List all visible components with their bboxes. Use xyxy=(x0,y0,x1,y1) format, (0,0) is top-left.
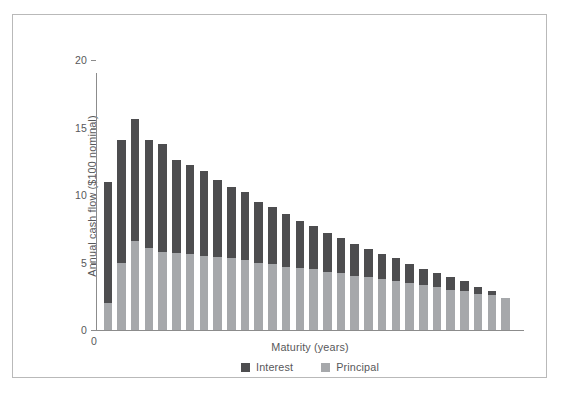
bar-segment-principal xyxy=(241,260,250,330)
stacked-bar xyxy=(186,165,195,330)
stacked-bar xyxy=(364,249,373,330)
bar-segment-interest xyxy=(446,277,455,289)
stacked-bar xyxy=(337,238,346,330)
stacked-bar xyxy=(268,207,277,330)
bar-segment-interest xyxy=(241,192,250,260)
bar-segment-principal xyxy=(350,276,359,330)
bar-segment-interest xyxy=(172,160,181,253)
bar-segment-principal xyxy=(158,252,167,330)
stacked-bar xyxy=(131,119,140,330)
bar-segment-interest xyxy=(227,187,236,259)
stacked-bar xyxy=(392,258,401,330)
bar-segment-interest xyxy=(213,180,222,257)
stacked-bar xyxy=(213,180,222,330)
legend-label: Principal xyxy=(336,361,379,373)
bar-segment-principal xyxy=(488,295,497,330)
y-axis-tick-mark xyxy=(91,263,96,264)
stacked-bar xyxy=(378,254,387,330)
stacked-bar xyxy=(254,202,263,330)
stacked-bar xyxy=(200,171,209,330)
x-axis-line xyxy=(96,330,524,331)
bar-segment-principal xyxy=(433,287,442,330)
stacked-bar xyxy=(474,287,483,330)
legend-label: Interest xyxy=(256,361,293,373)
stacked-bar xyxy=(433,273,442,330)
bar-segment-interest xyxy=(323,233,332,272)
bar-segment-principal xyxy=(104,303,113,330)
bar-segment-principal xyxy=(405,283,414,330)
bar-segment-interest xyxy=(131,119,140,241)
legend-swatch-interest-icon xyxy=(241,363,250,372)
bar-segment-principal xyxy=(213,257,222,330)
bar-segment-interest xyxy=(186,165,195,254)
bar-segment-interest xyxy=(433,273,442,287)
stacked-bar xyxy=(309,226,318,330)
chart-legend: InterestPrincipal xyxy=(96,361,524,373)
y-axis-tick-label: 5 xyxy=(81,257,87,269)
bar-segment-principal xyxy=(446,290,455,331)
stacked-bar xyxy=(350,244,359,330)
bar-segment-interest xyxy=(419,269,428,285)
bar-segment-principal xyxy=(323,272,332,330)
bar-segment-interest xyxy=(460,281,469,290)
x-axis-title: Maturity (years) xyxy=(96,341,524,353)
bar-segment-principal xyxy=(131,241,140,330)
bar-segment-interest xyxy=(254,202,263,263)
y-axis-tick-label: 0 xyxy=(81,324,87,336)
stacked-bar xyxy=(460,281,469,330)
bar-segment-principal xyxy=(392,281,401,330)
y-axis-tick-labels: 05101520 xyxy=(53,15,87,395)
bar-segment-interest xyxy=(268,207,277,264)
stacked-bar xyxy=(323,233,332,330)
bar-segment-principal xyxy=(501,298,510,330)
legend-item-interest[interactable]: Interest xyxy=(241,361,293,373)
chart-frame: Annual cash flow ($100 nominal) 05101520… xyxy=(12,14,547,378)
bar-segment-principal xyxy=(172,253,181,330)
stacked-bar xyxy=(501,298,510,330)
bar-segment-interest xyxy=(309,226,318,269)
bar-segment-principal xyxy=(227,258,236,330)
bar-segment-principal xyxy=(186,254,195,330)
bar-segment-principal xyxy=(474,294,483,330)
bar-segment-interest xyxy=(200,171,209,256)
stacked-bar xyxy=(104,182,113,331)
bar-segment-principal xyxy=(378,279,387,330)
bar-segment-principal xyxy=(117,263,126,331)
bar-segment-interest xyxy=(158,144,167,252)
bar-segment-principal xyxy=(309,269,318,330)
y-axis-tick-mark xyxy=(91,330,96,331)
bar-segment-principal xyxy=(254,263,263,331)
stacked-bar xyxy=(227,187,236,330)
stacked-bar xyxy=(158,144,167,330)
stacked-bar xyxy=(172,160,181,330)
bar-segment-principal xyxy=(145,248,154,330)
bar-segment-interest xyxy=(282,214,291,267)
stacked-bar xyxy=(446,277,455,330)
stacked-bar xyxy=(117,140,126,330)
bar-segment-interest xyxy=(364,249,373,277)
y-axis-tick-label: 15 xyxy=(75,122,87,134)
bar-series-container xyxy=(96,60,524,330)
bar-segment-principal xyxy=(419,285,428,330)
bar-segment-interest xyxy=(296,221,305,268)
bar-segment-principal xyxy=(268,264,277,330)
legend-swatch-principal-icon xyxy=(321,363,330,372)
bar-segment-principal xyxy=(460,291,469,330)
y-axis-tick-mark xyxy=(91,128,96,129)
bar-segment-principal xyxy=(296,268,305,330)
bar-segment-interest xyxy=(104,182,113,304)
bar-segment-interest xyxy=(350,244,359,276)
y-axis-tick-label: 20 xyxy=(75,54,87,66)
y-axis-tick-mark xyxy=(91,60,96,61)
bar-segment-interest xyxy=(145,140,154,248)
legend-item-principal[interactable]: Principal xyxy=(321,361,379,373)
stacked-bar xyxy=(419,269,428,330)
stacked-bar xyxy=(405,264,414,330)
bar-segment-interest xyxy=(378,254,387,278)
stacked-bar xyxy=(145,140,154,330)
stacked-bar xyxy=(282,214,291,330)
bar-segment-principal xyxy=(337,273,346,330)
chart-figure: Annual cash flow ($100 nominal) 05101520… xyxy=(0,0,561,395)
stacked-bar xyxy=(296,221,305,330)
bar-segment-interest xyxy=(117,140,126,263)
